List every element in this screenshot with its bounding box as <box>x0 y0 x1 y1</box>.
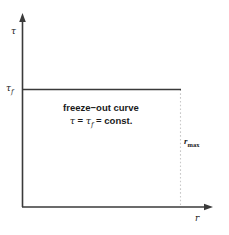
rmax-subscript: max <box>188 141 200 148</box>
x-axis-label: r <box>195 214 199 223</box>
y-tick-subscript: f <box>11 88 13 96</box>
y-axis-arrowhead <box>19 13 26 22</box>
caption-const-text: = const. <box>93 115 132 126</box>
rmax-annotation: rmax <box>184 137 199 148</box>
caption-line-freeze-out: freeze−out curve <box>22 101 180 114</box>
caption-line-equation: τ = τf = const. <box>22 114 180 132</box>
x-axis-arrowhead <box>204 204 213 211</box>
freeze-out-curve-figure: τ r τf rmax freeze−out curve τ = τf = co… <box>0 0 229 235</box>
y-axis-label: τ <box>11 27 16 36</box>
freeze-out-caption-block: freeze−out curve τ = τf = const. <box>22 101 180 132</box>
y-tick-label-tau-f: τf <box>6 84 13 95</box>
caption-equals-1: = <box>75 115 86 126</box>
